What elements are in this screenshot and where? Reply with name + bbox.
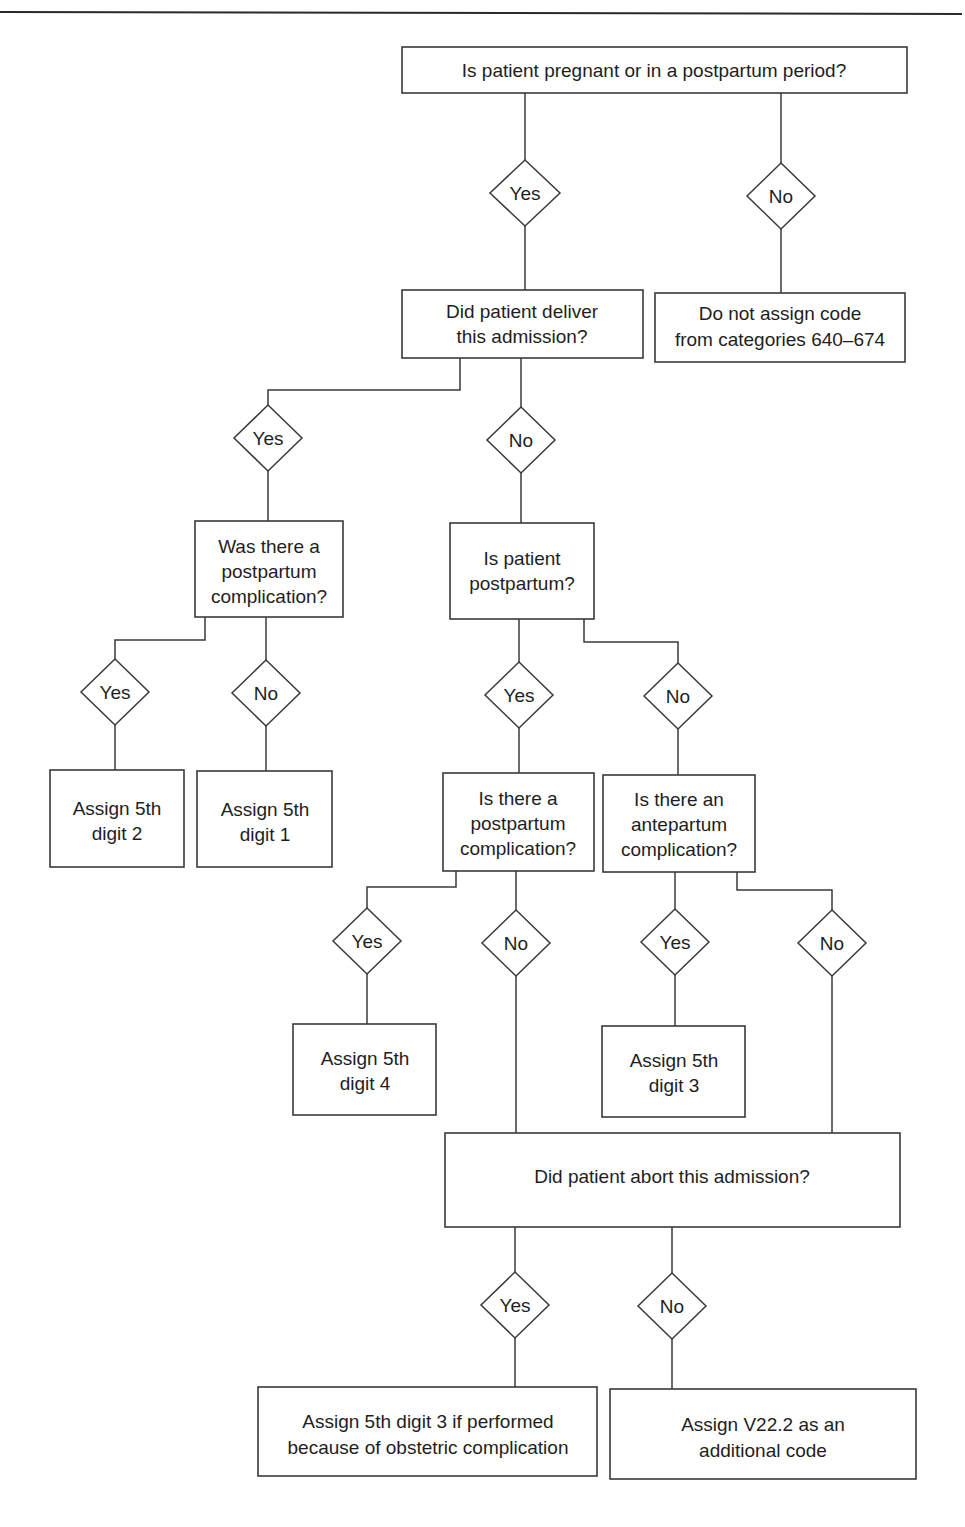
result-box-digit-4: Assign 5th digit 4 <box>293 1024 436 1115</box>
question-text-line2: postpartum <box>221 561 316 582</box>
result-text-line1: Assign 5th <box>630 1050 719 1071</box>
question-box-pregnant: Is patient pregnant or in a postpartum p… <box>402 47 907 93</box>
question-box-was-postpartum-complication: Was there a postpartum complication? <box>195 521 343 617</box>
decision-yes-pregnant: Yes <box>490 160 560 226</box>
decision-no-abort: No <box>638 1273 706 1339</box>
decision-no-postpartum-complication: No <box>482 910 550 976</box>
question-text-line1: Is there a <box>478 788 558 809</box>
decision-label: Yes <box>100 682 131 703</box>
flowchart-canvas: Is patient pregnant or in a postpartum p… <box>0 0 965 1527</box>
decision-yes-was-complication: Yes <box>81 659 149 725</box>
decision-label: No <box>504 933 528 954</box>
question-text-line3: complication? <box>621 839 737 860</box>
decision-label: No <box>666 686 690 707</box>
page-header-rule <box>0 12 962 14</box>
question-text-line3: complication? <box>211 586 327 607</box>
question-box-is-postpartum: Is patient postpartum? <box>450 523 594 619</box>
question-text-line1: Is there an <box>634 789 724 810</box>
decision-label: Yes <box>510 183 541 204</box>
decision-yes-antepartum-complication: Yes <box>641 909 709 975</box>
decision-label: Yes <box>660 932 691 953</box>
question-text-line2: postpartum <box>470 813 565 834</box>
decision-label: Yes <box>500 1295 531 1316</box>
result-text-line1: Assign 5th <box>321 1048 410 1069</box>
question-text: Did patient abort this admission? <box>534 1166 810 1187</box>
result-text-line1: Assign 5th digit 3 if performed <box>302 1411 553 1432</box>
result-text-line2: digit 2 <box>92 823 143 844</box>
question-box-abort: Did patient abort this admission? <box>445 1133 900 1227</box>
decision-yes-postpartum-complication: Yes <box>333 908 401 974</box>
decision-label: Yes <box>504 685 535 706</box>
decision-no-antepartum-complication: No <box>798 910 866 976</box>
result-box-digit-2: Assign 5th digit 2 <box>50 770 184 867</box>
result-text-line2: because of obstetric complication <box>288 1437 569 1458</box>
decision-no-was-complication: No <box>232 660 300 726</box>
result-text-line1: Do not assign code <box>699 303 862 324</box>
decision-no-is-postpartum: No <box>644 663 712 729</box>
result-box-v22-2: Assign V22.2 as an additional code <box>610 1389 916 1479</box>
result-box-abort-yes: Assign 5th digit 3 if performed because … <box>258 1387 597 1476</box>
result-text-line2: additional code <box>699 1440 827 1461</box>
question-box-is-postpartum-complication: Is there a postpartum complication? <box>443 773 594 871</box>
decision-label: No <box>509 430 533 451</box>
result-text-line1: Assign 5th <box>73 798 162 819</box>
decision-label: No <box>769 186 793 207</box>
result-text-line1: Assign V22.2 as an <box>681 1414 845 1435</box>
decision-label: Yes <box>352 931 383 952</box>
question-text-line1: Was there a <box>218 536 320 557</box>
question-text-line1: Is patient <box>483 548 561 569</box>
decision-yes-abort: Yes <box>481 1272 549 1338</box>
result-text-line2: digit 4 <box>340 1073 391 1094</box>
result-text-line2: from categories 640–674 <box>675 329 886 350</box>
result-box-no-code: Do not assign code from categories 640–6… <box>655 293 905 362</box>
result-text-line1: Assign 5th <box>221 799 310 820</box>
result-box-digit-1: Assign 5th digit 1 <box>197 771 332 867</box>
question-text-line3: complication? <box>460 838 576 859</box>
question-text-line1: Did patient deliver <box>446 301 599 322</box>
decision-label: No <box>254 683 278 704</box>
question-box-antepartum-complication: Is there an antepartum complication? <box>603 775 755 872</box>
decision-no-pregnant: No <box>747 163 815 229</box>
question-text-line2: antepartum <box>631 814 727 835</box>
decision-label: No <box>820 933 844 954</box>
decision-yes-is-postpartum: Yes <box>485 662 553 728</box>
decision-no-deliver: No <box>487 407 555 473</box>
question-box-deliver: Did patient deliver this admission? <box>402 290 643 358</box>
result-box-digit-3: Assign 5th digit 3 <box>602 1026 745 1117</box>
question-text-line2: postpartum? <box>469 573 575 594</box>
decision-yes-deliver: Yes <box>234 405 302 471</box>
result-text-line2: digit 3 <box>649 1075 700 1096</box>
decision-label: No <box>660 1296 684 1317</box>
result-text-line2: digit 1 <box>240 824 291 845</box>
question-text: Is patient pregnant or in a postpartum p… <box>462 60 846 81</box>
decision-label: Yes <box>253 428 284 449</box>
question-text-line2: this admission? <box>457 326 588 347</box>
